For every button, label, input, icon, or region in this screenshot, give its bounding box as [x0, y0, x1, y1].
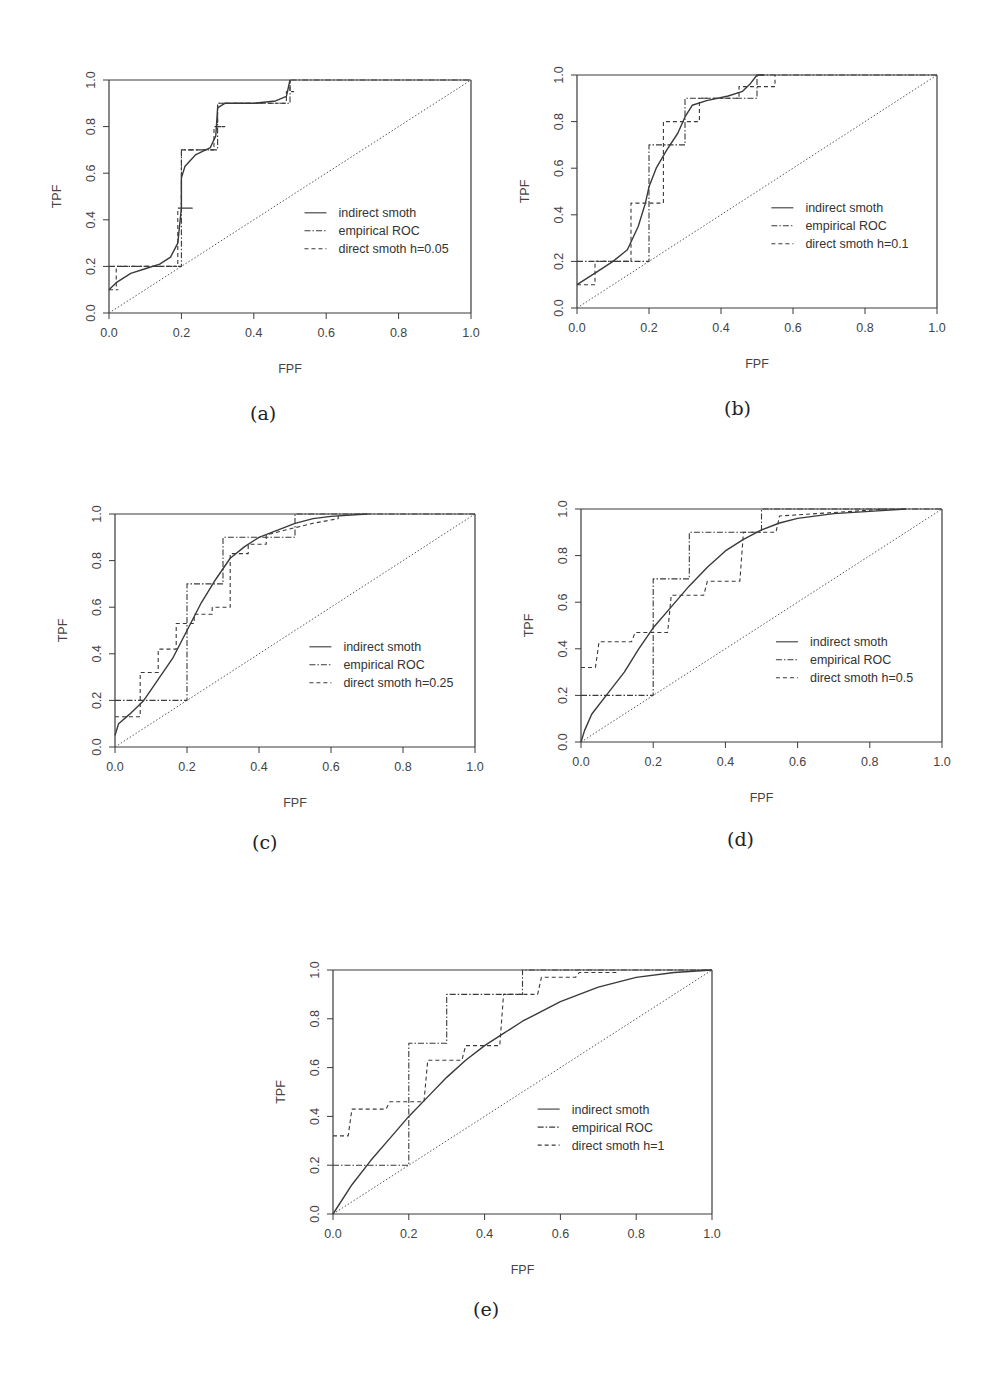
caption-b: (b) [724, 397, 751, 419]
empirical-roc-line [333, 970, 712, 1165]
legend-label: indirect smoth [572, 1103, 650, 1117]
chart-svg-e: 0.00.20.40.60.81.00.00.20.40.60.81.0FPFT… [0, 0, 1002, 1376]
legend: indirect smothempirical ROCdirect smoth … [538, 1103, 665, 1153]
chance-diagonal-line [333, 970, 712, 1214]
x-tick-label: 0.0 [324, 1227, 341, 1241]
x-tick-label: 0.4 [476, 1227, 493, 1241]
x-axis-title: FPF [511, 1263, 535, 1277]
y-tick-label: 0.4 [308, 1108, 322, 1125]
y-tick-label: 0.0 [308, 1205, 322, 1222]
y-tick-label: 0.6 [308, 1059, 322, 1076]
x-tick-label: 1.0 [703, 1227, 720, 1241]
caption-c: (c) [252, 831, 277, 853]
y-tick-label: 1.0 [308, 961, 322, 978]
x-tick-label: 0.2 [400, 1227, 417, 1241]
roc-panel-e: 0.00.20.40.60.81.00.00.20.40.60.81.0FPFT… [0, 0, 1002, 1376]
legend-label: empirical ROC [572, 1121, 653, 1135]
y-tick-label: 0.2 [308, 1156, 322, 1173]
caption-e: (e) [473, 1298, 499, 1320]
caption-d: (d) [727, 828, 754, 850]
y-axis-title: TPF [274, 1080, 288, 1104]
x-tick-label: 0.8 [628, 1227, 645, 1241]
caption-a: (a) [250, 402, 276, 424]
y-tick-label: 0.8 [308, 1010, 322, 1027]
x-tick-label: 0.6 [552, 1227, 569, 1241]
legend-label: direct smoth h=1 [572, 1139, 665, 1153]
